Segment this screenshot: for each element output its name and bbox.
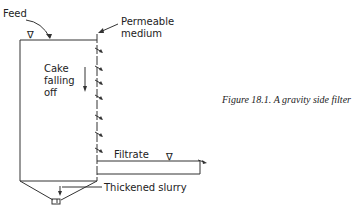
permeable-medium-label-line2: medium bbox=[121, 28, 162, 39]
feed-label: Feed bbox=[3, 8, 27, 19]
cake-falling-arrowhead-icon bbox=[83, 86, 87, 92]
filtrate-flow-arrows bbox=[95, 48, 103, 153]
thickened-slurry-label: Thickened slurry bbox=[103, 182, 187, 193]
cake-label-line2: falling bbox=[44, 75, 75, 86]
diagram-canvas: ∇ ∇ Feed Permeable medium Cake falling o… bbox=[0, 0, 355, 213]
cone-left-side bbox=[20, 181, 53, 200]
outlet-valve bbox=[52, 199, 60, 204]
filtrate-outflow-arrowhead-icon bbox=[202, 160, 207, 164]
feed-arrowhead-icon bbox=[46, 34, 52, 39]
tank-liquid-level-symbol: ∇ bbox=[26, 29, 34, 40]
filtrate-liquid-level-symbol: ∇ bbox=[165, 151, 173, 162]
cake-label-line1: Cake bbox=[44, 63, 69, 74]
figure-caption: Figure 18.1. A gravity side filter bbox=[221, 94, 351, 105]
filtrate-label: Filtrate bbox=[114, 149, 149, 160]
cake-label-line3: off bbox=[44, 87, 58, 98]
permeable-arrowhead-icon bbox=[98, 28, 104, 33]
gravity-side-filter-diagram: ∇ ∇ Feed Permeable medium Cake falling o… bbox=[0, 0, 355, 213]
slurry-arrowhead-icon bbox=[58, 191, 62, 196]
cone-right-side bbox=[61, 181, 97, 200]
permeable-medium-label-line1: Permeable bbox=[121, 16, 174, 27]
